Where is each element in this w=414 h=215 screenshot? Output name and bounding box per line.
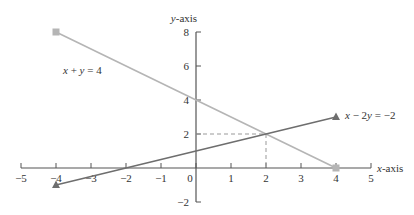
y-tick-label: −2 [177, 196, 189, 208]
x-tick-label: 4 [333, 172, 339, 184]
y-tick-label: 2 [184, 128, 190, 140]
origin-label: 0 [187, 172, 193, 184]
line-chart: −5−4−3−2−1123450−22468x-axisy-axisx + y … [0, 0, 414, 215]
y-tick-label: 6 [184, 60, 190, 72]
square-marker-icon [53, 29, 60, 36]
y-axis-label: y-axis [170, 12, 197, 24]
x-tick-label: −2 [120, 172, 132, 184]
equation-label-1: x + y = 4 [62, 64, 102, 76]
triangle-marker-icon [332, 113, 340, 121]
x-tick-label: −5 [15, 172, 27, 184]
x-tick-label: 2 [263, 172, 269, 184]
chart-container: −5−4−3−2−1123450−22468x-axisy-axisx + y … [0, 0, 414, 215]
y-tick-label: 8 [184, 26, 190, 38]
equation-label-2: x − 2y = −2 [344, 109, 395, 121]
square-marker-icon [333, 165, 340, 172]
x-tick-label: 5 [368, 172, 374, 184]
x-tick-label: 1 [228, 172, 234, 184]
x-tick-label: 3 [298, 172, 304, 184]
x-axis-label: x-axis [376, 162, 403, 174]
x-tick-label: −1 [155, 172, 167, 184]
